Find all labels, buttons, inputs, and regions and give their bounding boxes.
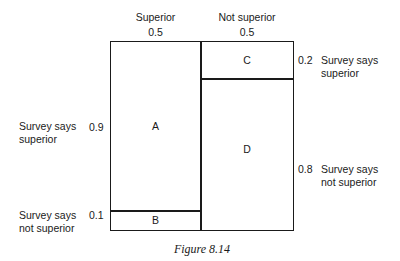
left-row-superior-value: 0.9 xyxy=(89,121,104,133)
right-row-not-superior-value: 0.8 xyxy=(298,163,313,175)
left-row-superior-label-1: Survey says xyxy=(19,120,76,132)
ab-divider xyxy=(110,210,201,212)
right-row-not-superior-label-2: not superior xyxy=(321,176,376,188)
column-value-superior: 0.5 xyxy=(110,26,201,38)
cd-divider xyxy=(201,78,294,80)
figure-caption: Figure 8.14 xyxy=(110,243,294,255)
column-header-superior: Superior xyxy=(110,11,201,23)
column-value-not-superior: 0.5 xyxy=(201,26,293,38)
column-header-not-superior: Not superior xyxy=(201,11,293,23)
right-row-not-superior-label-1: Survey says xyxy=(321,163,378,175)
left-row-not-superior-label-1: Survey says xyxy=(19,209,76,221)
right-row-superior-label-1: Survey says xyxy=(321,54,378,66)
right-row-superior-label-2: superior xyxy=(321,67,359,79)
cell-d: D xyxy=(201,143,293,155)
left-row-not-superior-label-2: not superior xyxy=(19,222,74,234)
right-row-superior-value: 0.2 xyxy=(298,54,313,66)
left-row-superior-label-2: superior xyxy=(19,133,57,145)
cell-c: C xyxy=(201,54,293,66)
left-row-not-superior-value: 0.1 xyxy=(89,209,104,221)
column-divider xyxy=(200,41,202,231)
diagram-outer-box xyxy=(110,41,294,231)
cell-b: B xyxy=(110,214,201,226)
cell-a: A xyxy=(110,120,201,132)
